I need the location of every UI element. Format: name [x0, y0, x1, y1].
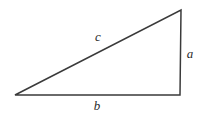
hypotenuse-label: c [95, 30, 101, 43]
vertical-leg-label: a [187, 47, 194, 60]
triangle-outline [15, 10, 181, 95]
triangle-drawing [0, 0, 205, 118]
triangle-diagram: c a b [0, 0, 205, 118]
horizontal-leg-label: b [94, 99, 101, 112]
